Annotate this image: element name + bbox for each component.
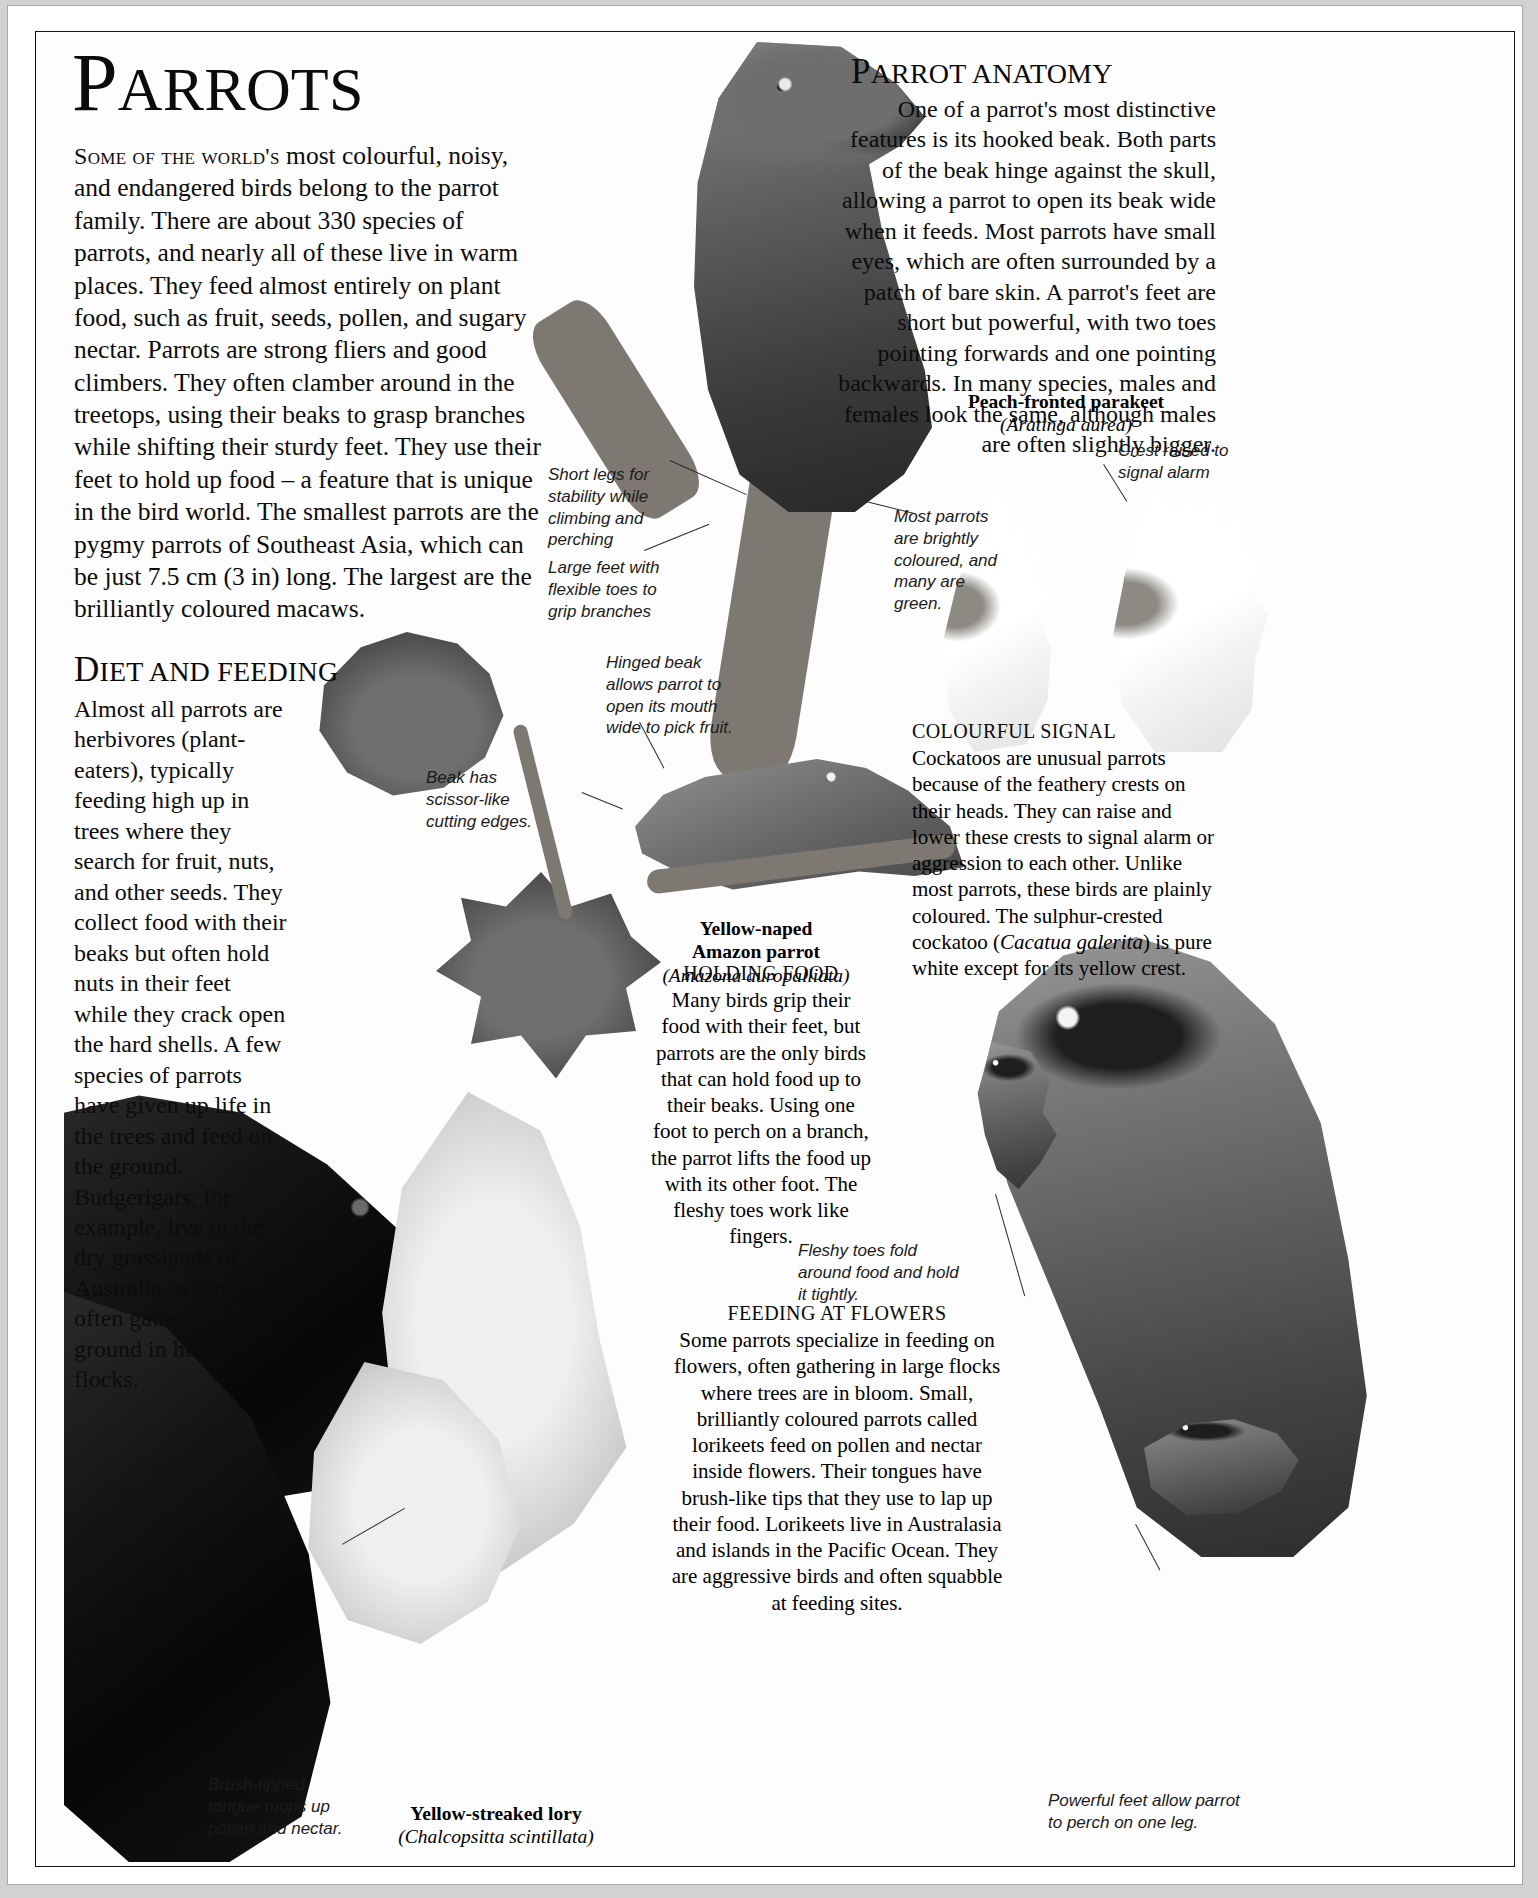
annotation-hinged-beak: Hinged beak allows parrot to open its mo… <box>606 652 748 739</box>
caption-latin-name: (Aratinga aurea) <box>916 413 1216 436</box>
caption-common-name: Peach-fronted parakeet <box>916 390 1216 413</box>
anatomy-heading-rest: ARROT ANATOMY <box>871 58 1113 89</box>
intro-body: most colourful, noisy, and endangered bi… <box>74 141 541 623</box>
page-board: PARROT FAMILY <box>0 0 1538 1898</box>
annotation-powerful-feet: Powerful feet allow parrot to perch on o… <box>1048 1790 1248 1834</box>
intro-paragraph: Some of the world's most colourful, nois… <box>74 140 544 626</box>
holding-food-body: Many birds grip their food with their fe… <box>651 987 871 1250</box>
intro-lead-in: Some of the world's <box>74 143 280 169</box>
anatomy-heading-capital: P <box>851 52 871 91</box>
feeding-at-flowers-body: Some parrots specialize in feeding on fl… <box>666 1327 1008 1616</box>
annotation-crest-raised: Crest raised to signal alarm <box>1118 440 1248 484</box>
holding-food-heading: HOLDING FOOD <box>651 962 871 985</box>
photo-cockatoo-right <box>1071 487 1281 752</box>
caption-common-name-line1: Yellow-naped <box>626 917 886 940</box>
diet-body: Almost all parrots are herbivores (plant… <box>74 694 289 1395</box>
caption-yellow-streaked-lory: Yellow-streaked lory (Chalcopsitta scint… <box>366 1802 626 1849</box>
colourful-signal-body-part1: Cockatoos are unusual parrots because of… <box>912 746 1214 954</box>
caption-latin-name: (Chalcopsitta scintillata) <box>366 1825 626 1848</box>
annotation-fleshy-toes: Fleshy toes fold around food and hold it… <box>798 1240 968 1305</box>
annotation-brush-tongue: Brush-tipped tongue mops up pollen and n… <box>208 1774 356 1839</box>
section-colourful-signal: COLOURFUL SIGNAL Cockatoos are unusual p… <box>912 720 1222 981</box>
feeding-at-flowers-heading: FEEDING AT FLOWERS <box>666 1302 1008 1325</box>
page-title-capital: P <box>72 37 118 128</box>
diet-heading-capital: D <box>74 650 99 689</box>
section-feeding-at-flowers: FEEDING AT FLOWERS Some parrots speciali… <box>666 1302 1008 1616</box>
page-sheet: PARROTS Some of the world's most colourf… <box>8 6 1522 1884</box>
page-title-rest: ARROTS <box>118 55 364 123</box>
page-content-frame: PARROTS Some of the world's most colourf… <box>35 31 1515 1867</box>
colourful-signal-heading: COLOURFUL SIGNAL <box>912 720 1222 743</box>
section-diet-and-feeding: DIET AND FEEDING Almost all parrots are … <box>74 650 444 1395</box>
caption-common-name: Yellow-streaked lory <box>366 1802 626 1825</box>
colourful-signal-species: Cacatua galerita <box>1000 930 1143 954</box>
section-holding-food: HOLDING FOOD Many birds grip their food … <box>651 962 871 1250</box>
diet-heading-rest: IET AND FEEDING <box>99 656 338 687</box>
annotation-short-legs: Short legs for stability while climbing … <box>548 464 666 551</box>
running-head: PARROT FAMILY <box>0 0 1538 4</box>
annotation-scissor-beak: Beak has scissor-like cutting edges. <box>426 767 546 832</box>
leader-line-scissor-beak <box>582 792 623 809</box>
page-title: PARROTS <box>72 44 592 122</box>
caption-common-name-line2: Amazon parrot <box>626 940 886 963</box>
annotation-most-parrots-green: Most parrots are brightly coloured, and … <box>894 506 1004 615</box>
caption-peach-fronted-parakeet: Peach-fronted parakeet (Aratinga aurea) <box>916 390 1216 437</box>
leader-line-powerful-feet <box>1135 1524 1160 1570</box>
annotation-large-feet: Large feet with flexible toes to grip br… <box>548 557 668 622</box>
